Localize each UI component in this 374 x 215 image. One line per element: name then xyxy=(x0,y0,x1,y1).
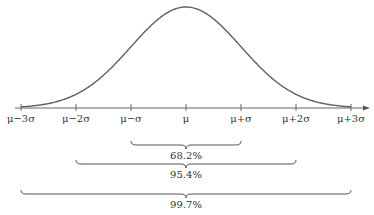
label-95-percent: 95.4% xyxy=(170,169,202,180)
brace-95 xyxy=(76,160,296,168)
tick-label-minus-2sigma: μ−2σ xyxy=(62,113,90,124)
tick-label-plus-sigma: μ+σ xyxy=(230,113,252,124)
label-68-percent: 68.2% xyxy=(170,150,202,161)
axis-arrow-icon xyxy=(363,106,370,111)
tick-label-minus-sigma: μ−σ xyxy=(120,113,142,124)
tick-label-plus-2sigma: μ+2σ xyxy=(282,113,310,124)
tick-label-mu: μ xyxy=(183,113,190,124)
tick-label-plus-3sigma: μ+3σ xyxy=(337,113,365,124)
tick-label-minus-3sigma: μ−3σ xyxy=(7,113,35,124)
normal-curve xyxy=(21,7,351,107)
label-99-percent: 99.7% xyxy=(170,199,202,210)
brace-68 xyxy=(131,141,241,149)
bell-curve-diagram xyxy=(0,0,374,215)
brace-99 xyxy=(21,190,351,198)
